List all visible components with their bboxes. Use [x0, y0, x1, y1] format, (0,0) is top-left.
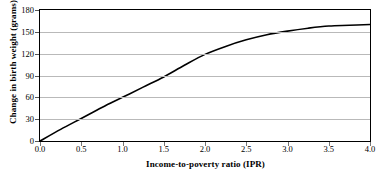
series-line-change-in-birth-weight — [40, 25, 370, 141]
x-tick-label-3.0: 3.0 — [273, 145, 303, 153]
x-tick-label-3.5: 3.5 — [314, 145, 344, 153]
x-tick-mark-2.0 — [205, 142, 206, 146]
y-tick-label-60: 60 — [8, 93, 34, 101]
y-tick-label-0: 0 — [8, 137, 34, 145]
x-tick-mark-3.0 — [288, 142, 289, 146]
x-tick-mark-3.5 — [329, 142, 330, 146]
x-tick-mark-4.0 — [370, 142, 371, 146]
y-tick-label-150: 150 — [8, 28, 34, 36]
y-tick-label-180: 180 — [8, 6, 34, 14]
gridline-y-150 — [40, 32, 370, 33]
y-tick-label-120: 120 — [8, 50, 34, 58]
x-tick-label-2.5: 2.5 — [231, 145, 261, 153]
x-tick-label-0.5: 0.5 — [66, 145, 96, 153]
y-tick-label-30: 30 — [8, 115, 34, 123]
gridline-y-30 — [40, 119, 370, 120]
x-tick-label-2.0: 2.0 — [190, 145, 220, 153]
chart-figure: Change in birth weight (grams) 030609012… — [0, 0, 386, 174]
plot-area — [39, 9, 371, 142]
x-tick-label-0.0: 0.0 — [25, 145, 55, 153]
x-tick-mark-1.0 — [123, 142, 124, 146]
x-tick-label-1.5: 1.5 — [149, 145, 179, 153]
x-tick-label-4.0: 4.0 — [355, 145, 385, 153]
gridline-y-60 — [40, 97, 370, 98]
x-tick-label-1.0: 1.0 — [108, 145, 138, 153]
gridline-y-120 — [40, 54, 370, 55]
gridline-y-90 — [40, 76, 370, 77]
y-tick-label-90: 90 — [8, 72, 34, 80]
x-tick-mark-0.5 — [81, 142, 82, 146]
x-tick-mark-2.5 — [246, 142, 247, 146]
x-tick-mark-0.0 — [40, 142, 41, 146]
x-axis-title: Income-to-poverty ratio (IPR) — [39, 159, 372, 169]
x-tick-mark-1.5 — [164, 142, 165, 146]
